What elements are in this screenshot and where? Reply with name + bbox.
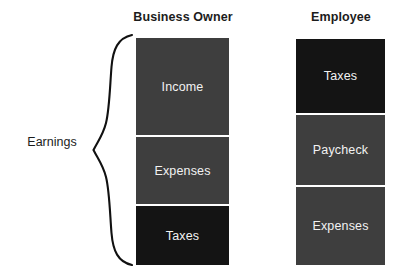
column-business-owner: Income Expenses Taxes <box>136 38 229 265</box>
block-employee-paycheck: Paycheck <box>296 115 385 185</box>
diagram-canvas: Business Owner Employee Earnings Income … <box>0 0 408 279</box>
block-business-owner-expenses: Expenses <box>136 137 229 204</box>
earnings-label: Earnings <box>14 135 90 149</box>
column-header-employee: Employee <box>285 10 397 24</box>
block-employee-expenses: Expenses <box>296 187 385 265</box>
block-business-owner-taxes: Taxes <box>136 206 229 265</box>
block-label: Paycheck <box>313 143 368 157</box>
block-employee-taxes: Taxes <box>296 39 385 113</box>
block-business-owner-income: Income <box>136 38 229 135</box>
block-label: Taxes <box>166 229 199 243</box>
block-label: Expenses <box>312 219 368 233</box>
block-label: Expenses <box>154 164 210 178</box>
curly-brace-svg <box>92 33 134 269</box>
column-employee: Taxes Paycheck Expenses <box>296 39 385 265</box>
curly-brace-icon <box>92 33 134 269</box>
block-label: Income <box>162 80 204 94</box>
block-label: Taxes <box>324 69 357 83</box>
column-header-business-owner: Business Owner <box>123 10 243 24</box>
